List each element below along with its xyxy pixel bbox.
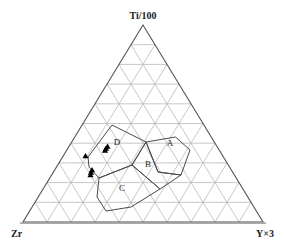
grid-line (131, 45, 239, 222)
grid-line (47, 45, 155, 222)
apex-label-ti: Ti/100 (129, 10, 156, 21)
data-points (82, 143, 110, 177)
grid-line (35, 202, 47, 222)
grid-lines (35, 45, 251, 222)
data-point-marker (104, 143, 110, 148)
field-label-c: C (119, 183, 125, 193)
vertex-label-y: Y×3 (256, 228, 274, 239)
vertex-label-zr: Zr (11, 228, 23, 239)
field-label-a: A (167, 138, 174, 148)
grid-line (191, 163, 227, 222)
ternary-plot-canvas: ABCD Ti/100 Zr Y×3 (0, 0, 285, 249)
grid-line (95, 84, 179, 222)
ternary-diagram-figure: ABCD Ti/100 Zr Y×3 (0, 0, 285, 249)
grid-line (239, 202, 251, 222)
field-label-d: D (114, 137, 121, 147)
field-label-b: B (145, 159, 151, 169)
field-boundaries (88, 125, 190, 211)
grid-line (107, 84, 191, 222)
field-polygon-c (97, 165, 160, 211)
